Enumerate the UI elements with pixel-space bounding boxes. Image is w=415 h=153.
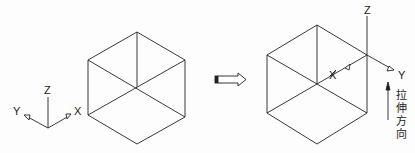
right-cube	[267, 25, 367, 144]
left-y-label: Y	[13, 105, 21, 117]
right-x-label: X	[329, 69, 337, 81]
extrude-direction-arrow	[386, 82, 390, 120]
left-x-label: X	[74, 105, 82, 117]
direction-char-1: 拉	[396, 88, 407, 102]
hollow-right-arrow-icon	[215, 73, 246, 86]
diagram-canvas: Z Y X Z Y X 拉 伸 方 向	[0, 0, 415, 153]
right-ucs-icon	[330, 16, 394, 76]
left-cube	[88, 32, 185, 144]
diagram-svg: Z Y X Z Y X 拉 伸 方 向	[0, 0, 415, 153]
direction-char-3: 方	[396, 114, 407, 128]
direction-char-2: 伸	[396, 102, 407, 115]
right-z-label: Z	[364, 4, 371, 16]
left-z-label: Z	[44, 84, 51, 96]
right-y-label: Y	[398, 69, 406, 81]
left-ucs-icon	[24, 97, 71, 128]
direction-char-4: 向	[396, 127, 407, 141]
